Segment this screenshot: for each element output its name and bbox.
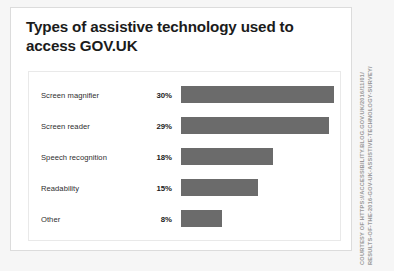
chart-row-value: 15%	[125, 183, 172, 192]
chart-row-value: 8%	[125, 214, 172, 223]
chart-row-value: 30%	[125, 90, 172, 99]
chart-bar-track	[181, 148, 334, 165]
chart-row: Screen magnifier30%	[29, 86, 340, 103]
chart-row: Other8%	[29, 210, 340, 227]
chart-row-label: Readability	[41, 183, 79, 192]
page-title: Types of assistive technology used to ac…	[26, 17, 331, 55]
chart-bar	[181, 210, 222, 227]
credit-block: COURTESY OF HTTPS://ACCESSIBILITY.BLOG.G…	[357, 0, 381, 271]
credit-line-primary: COURTESY OF HTTPS://ACCESSIBILITY.BLOG.G…	[359, 72, 365, 265]
chart-row: Screen reader29%	[29, 117, 340, 134]
chart-row-label: Other	[41, 214, 60, 223]
chart-row-label: Screen magnifier	[41, 90, 99, 99]
chart-bar	[181, 86, 334, 103]
chart-bar	[181, 148, 273, 165]
chart-bar-track	[181, 117, 334, 134]
chart-row-label: Screen reader	[41, 121, 90, 130]
chart-bar-track	[181, 86, 334, 103]
chart-row: Readability15%	[29, 179, 340, 196]
chart-row-value: 29%	[125, 121, 172, 130]
infographic-card: Types of assistive technology used to ac…	[10, 7, 352, 251]
chart-row: Speech recognition18%	[29, 148, 340, 165]
chart-bar-track	[181, 210, 334, 227]
chart-bar	[181, 117, 329, 134]
chart-bar	[181, 179, 258, 196]
bar-chart-panel: Screen magnifier30%Screen reader29%Speec…	[28, 71, 341, 241]
chart-bar-track	[181, 179, 334, 196]
credit-line-secondary: RESULTS-OF-THE-2016-GOV-UK-ASSISTIVE-TEC…	[367, 66, 373, 265]
chart-row-label: Speech recognition	[41, 152, 107, 161]
chart-row-value: 18%	[125, 152, 172, 161]
